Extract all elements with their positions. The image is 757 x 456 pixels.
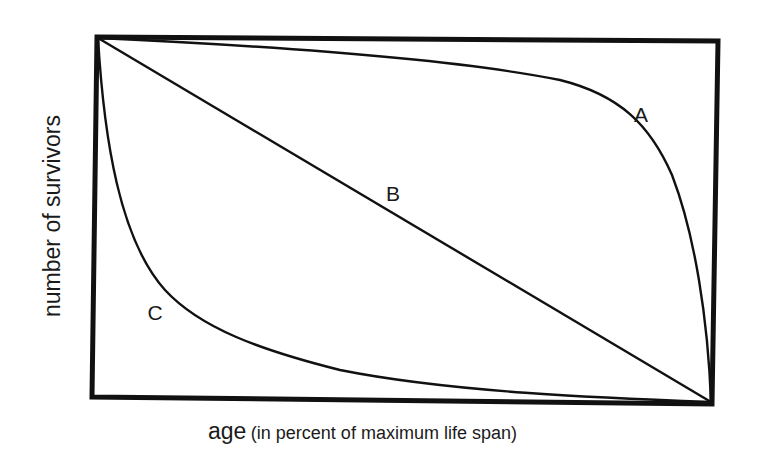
x-axis-label: age (in percent of maximum life span) [208,418,517,445]
x-axis-label-main: age [208,418,246,444]
y-axis-label: number of survivors [39,115,66,317]
curve-label-a: A [634,103,648,127]
curve-label-b: B [386,182,400,206]
x-axis-label-note: (in percent of maximum life span) [251,423,517,443]
survivorship-chart [0,0,757,456]
curve-label-c: C [147,301,162,325]
curve-b [98,38,711,402]
